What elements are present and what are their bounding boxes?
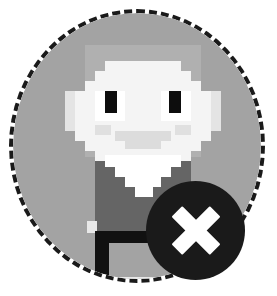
head-shade-right: [211, 91, 221, 131]
mouth-lower: [125, 141, 161, 149]
foot-heel: [95, 277, 109, 279]
left-cheek: [95, 125, 111, 135]
head-row: [85, 81, 201, 91]
beard-row: [115, 167, 171, 177]
x-icon: [146, 181, 245, 280]
right-cheek: [175, 125, 191, 135]
head-row: [65, 111, 221, 121]
beard-row: [105, 155, 181, 167]
leg-vertical: [95, 231, 109, 279]
head-shade-left: [65, 91, 75, 131]
mouth-upper: [115, 131, 171, 141]
remove-badge[interactable]: [146, 181, 245, 280]
foot-left: [65, 277, 95, 279]
right-eye-pupil: [169, 91, 181, 113]
head-row: [105, 61, 181, 71]
left-eye-pupil: [105, 91, 117, 113]
avatar-remove-widget: [0, 0, 277, 296]
head-row: [95, 71, 191, 81]
